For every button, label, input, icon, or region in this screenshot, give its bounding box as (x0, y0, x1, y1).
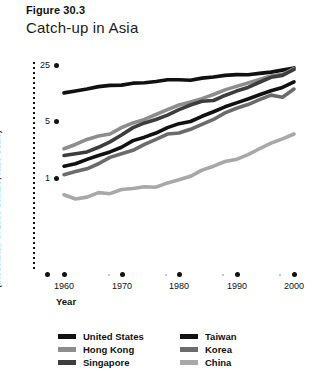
legend-label-singapore: Singapore (83, 357, 129, 368)
legend-item-korea: Korea (180, 343, 237, 356)
legend-swatch-korea (180, 347, 198, 352)
legend-label-korea: Korea (205, 344, 232, 355)
legend-column-1: United States Hong Kong Singapore (58, 330, 144, 369)
legend-swatch-china (180, 360, 198, 365)
legend-item-taiwan: Taiwan (180, 330, 237, 343)
legend-column-2: Taiwan Korea China (180, 330, 237, 369)
legend-label-china: China (205, 357, 231, 368)
legend-item-hong-kong: Hong Kong (58, 343, 144, 356)
legend-label-hong-kong: Hong Kong (83, 344, 134, 355)
chart-plot-area (0, 0, 324, 371)
legend-label-taiwan: Taiwan (205, 331, 237, 342)
series-line-singapore (64, 69, 294, 155)
legend-swatch-united-states (58, 334, 76, 339)
series-line-korea (64, 89, 294, 175)
legend-item-china: China (180, 356, 237, 369)
series-line-taiwan (64, 82, 294, 166)
legend-item-united-states: United States (58, 330, 144, 343)
legend-item-singapore: Singapore (58, 356, 144, 369)
legend-swatch-hong-kong (58, 347, 76, 352)
figure-root: Figure 30.3 Catch-up in Asia Real GDP pe… (0, 0, 324, 371)
legend-swatch-singapore (58, 360, 76, 365)
legend-label-united-states: United States (83, 331, 144, 342)
series-line-china (64, 134, 294, 199)
legend-swatch-taiwan (180, 334, 198, 339)
